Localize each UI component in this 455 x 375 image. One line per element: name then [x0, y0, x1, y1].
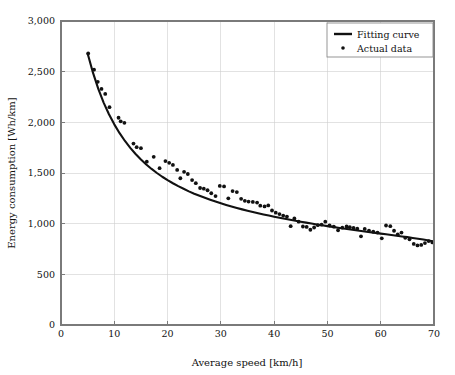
- y-tick-label: 1,000: [28, 218, 55, 229]
- data-point: [152, 155, 156, 159]
- data-point: [412, 242, 416, 246]
- data-point: [274, 211, 278, 215]
- data-point: [408, 237, 412, 241]
- data-point: [312, 226, 316, 230]
- x-tick-label: 20: [162, 328, 174, 339]
- data-point: [255, 201, 259, 205]
- data-point: [258, 204, 262, 208]
- data-point: [348, 225, 352, 229]
- data-point: [336, 228, 340, 232]
- data-point: [171, 163, 175, 167]
- data-point: [285, 215, 289, 219]
- gridlines: [61, 21, 434, 325]
- data-point: [388, 224, 392, 228]
- data-point: [190, 178, 194, 182]
- data-point: [340, 226, 344, 230]
- y-axis-title: Energy consumption [Wh/km]: [6, 97, 17, 249]
- data-point: [103, 92, 107, 96]
- data-point: [135, 145, 139, 149]
- data-point: [139, 146, 143, 150]
- data-point: [419, 243, 423, 247]
- data-point: [403, 236, 407, 240]
- data-point: [301, 225, 305, 229]
- data-point: [178, 176, 182, 180]
- data-point: [380, 236, 384, 240]
- data-point: [218, 184, 222, 188]
- data-point: [108, 105, 112, 109]
- data-point: [145, 160, 149, 164]
- data-point: [352, 226, 356, 230]
- data-point: [281, 214, 285, 218]
- data-point: [202, 187, 206, 191]
- data-point: [320, 223, 324, 227]
- data-point: [243, 199, 247, 203]
- data-point: [132, 142, 136, 146]
- data-point: [235, 190, 239, 194]
- data-point: [92, 68, 96, 72]
- legend-label-fitting-curve: Fitting curve: [357, 29, 420, 40]
- data-point: [206, 188, 210, 192]
- data-point: [194, 181, 198, 185]
- x-tick-label: 0: [58, 328, 64, 339]
- data-point: [270, 209, 274, 213]
- x-tick-label: 70: [428, 328, 440, 339]
- x-tick-label: 10: [108, 328, 120, 339]
- data-point: [117, 116, 121, 120]
- data-point: [392, 229, 396, 233]
- data-point: [416, 244, 420, 248]
- data-point: [247, 200, 251, 204]
- chart-figure: 010203040506070 05001,0001,5002,0002,500…: [0, 0, 455, 375]
- data-point: [214, 194, 218, 198]
- data-point: [239, 197, 243, 201]
- data-point: [119, 119, 123, 123]
- data-point: [384, 224, 388, 228]
- data-point: [198, 186, 202, 190]
- chart-legend: Fitting curve Actual data: [327, 23, 433, 57]
- data-point: [209, 191, 213, 195]
- data-point: [323, 220, 327, 224]
- data-point: [292, 217, 296, 221]
- data-point: [332, 225, 336, 229]
- data-point: [400, 231, 404, 235]
- y-tick-label: 0: [49, 319, 55, 330]
- y-axis-ticks: 05001,0001,5002,0002,5003,000: [28, 15, 65, 330]
- data-point: [231, 189, 235, 193]
- y-tick-label: 500: [37, 269, 55, 280]
- data-point: [376, 231, 380, 235]
- y-tick-label: 1,500: [28, 167, 55, 178]
- data-point: [396, 232, 400, 236]
- data-point: [328, 224, 332, 228]
- data-point: [423, 241, 427, 245]
- data-point: [123, 121, 127, 125]
- data-point: [316, 223, 320, 227]
- data-point: [175, 168, 179, 172]
- data-point: [251, 200, 255, 204]
- data-series: [86, 52, 434, 248]
- data-point: [355, 227, 359, 231]
- data-point: [427, 239, 431, 243]
- data-point: [186, 172, 190, 176]
- data-point: [305, 225, 309, 229]
- legend-label-actual-data: Actual data: [356, 43, 412, 54]
- y-tick-label: 3,000: [28, 15, 55, 26]
- data-point: [158, 166, 162, 170]
- data-point: [367, 229, 371, 233]
- x-tick-label: 60: [375, 328, 387, 339]
- data-point: [278, 212, 282, 216]
- data-point: [96, 80, 100, 84]
- data-point: [182, 170, 186, 174]
- actual-data-points: [86, 52, 434, 248]
- data-point: [100, 87, 104, 91]
- x-axis-title: Average speed [km/h]: [191, 357, 303, 368]
- y-tick-label: 2,000: [28, 117, 55, 128]
- y-tick-label: 2,500: [28, 66, 55, 77]
- x-tick-label: 40: [268, 328, 280, 339]
- data-point: [308, 228, 312, 232]
- x-axis-ticks: 010203040506070: [58, 321, 440, 339]
- data-point: [363, 227, 367, 231]
- data-point: [222, 184, 226, 188]
- data-point: [86, 52, 90, 56]
- data-point: [345, 225, 349, 229]
- x-tick-label: 50: [321, 328, 333, 339]
- data-point: [371, 230, 375, 234]
